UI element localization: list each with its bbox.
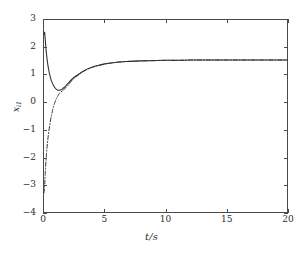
x-tick-mark: [288, 209, 289, 213]
y-axis-label: xi1: [11, 91, 24, 121]
x-tick-mark: [104, 209, 105, 213]
x-tick-label: 5: [84, 214, 124, 224]
y-tick-mark: [43, 185, 47, 186]
y-tick-label: 1: [0, 69, 36, 78]
chart-figure: −4−3−2−1012305101520 t/s xi1: [0, 0, 303, 254]
x-axis-label: t/s: [0, 231, 303, 242]
x-tick-label: 0: [23, 214, 63, 224]
y-tick-mark-right: [284, 102, 288, 103]
y-tick-label: −1: [0, 125, 36, 134]
y-tick-label: 2: [0, 42, 36, 51]
x-tick-mark-top: [43, 19, 44, 23]
y-tick-mark: [43, 158, 47, 159]
plot-area: [43, 19, 288, 213]
x-tick-mark-top: [288, 19, 289, 23]
x-tick-mark-top: [104, 19, 105, 23]
y-tick-mark: [43, 102, 47, 103]
x-tick-mark: [43, 209, 44, 213]
x-tick-mark: [227, 209, 228, 213]
y-tick-mark-right: [284, 47, 288, 48]
y-tick-mark-right: [284, 158, 288, 159]
x-tick-label: 15: [207, 214, 247, 224]
y-tick-mark-right: [284, 185, 288, 186]
y-tick-mark-right: [284, 74, 288, 75]
y-tick-mark: [43, 130, 47, 131]
x-tick-mark: [166, 209, 167, 213]
curves-svg: [44, 20, 287, 212]
y-axis-label-base: x: [11, 107, 21, 112]
y-tick-label: −3: [0, 180, 36, 189]
y-axis-label-subscript: i1: [15, 101, 23, 107]
y-tick-mark: [43, 47, 47, 48]
x-tick-label: 10: [146, 214, 186, 224]
x-tick-label: 20: [268, 214, 303, 224]
x-tick-mark-top: [227, 19, 228, 23]
y-tick-label: 3: [0, 14, 36, 23]
series-dashdot-response: [44, 60, 287, 193]
y-tick-label: −2: [0, 153, 36, 162]
y-tick-mark-right: [284, 130, 288, 131]
y-tick-mark: [43, 74, 47, 75]
series-solid-response: [44, 32, 287, 90]
x-tick-mark-top: [166, 19, 167, 23]
